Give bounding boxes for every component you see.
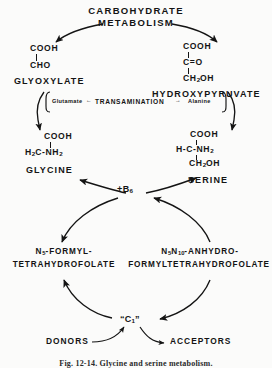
- serine-structure-line-2: H-C-NH2: [176, 145, 214, 155]
- hydroxypyruvate-structure-line-1: COOH: [183, 42, 211, 51]
- glyoxylate-structure-line-2: CHO: [30, 61, 51, 70]
- arrow-c1-pool-to-acceptors: [140, 327, 164, 343]
- one-carbon-pool-label: “C1”: [120, 315, 140, 325]
- arrow-donors-to-c1-pool: [92, 327, 124, 342]
- glyoxylate-name: GLYOXYLATE: [14, 77, 85, 86]
- serine-structure-line-3: CH2OH: [189, 159, 220, 169]
- figure-caption: Fig. 12-14. Glycine and serine metabolis…: [0, 359, 272, 368]
- arrow-n5n10-to-b6: [154, 198, 210, 242]
- transamination-left-arrow: ←: [86, 98, 92, 104]
- n5n10-anhydro-thf-line-2: FORMYLTETRAHYDROFOLATE: [126, 259, 272, 270]
- figure-title-line-1: CARBOHYDRATE: [0, 6, 272, 16]
- transamination-bracket-left: [46, 92, 50, 112]
- arrow-c1-pool-to-n5-formyl-thf: [64, 280, 112, 318]
- transamination-right-arrow: →: [175, 98, 181, 104]
- hydroxypyruvate-structure-line-3: CH2OH: [183, 74, 214, 84]
- transamination-left-product: Glutamate: [52, 99, 83, 105]
- glyoxylate-structure-line-1: COOH: [30, 44, 58, 53]
- cofactor-b6-label: +B6: [117, 185, 133, 195]
- diagram-arrows-layer: [0, 0, 272, 368]
- arrow-to-n5-formyl-thf: [62, 198, 118, 242]
- acceptors-label: ACCEPTORS: [170, 337, 231, 346]
- transamination-right-product: Alanine: [188, 99, 211, 105]
- glycine-structure-line-2: H2C-NH2: [25, 148, 63, 158]
- donors-label: DONORS: [46, 337, 89, 346]
- hydroxypyruvate-structure-line-2: C=O: [183, 58, 203, 67]
- figure-container: CARBOHYDRATE METABOLISM COOH CHO GLYOXYL…: [0, 0, 272, 368]
- arrow-glyoxylate-to-glycine: [37, 92, 44, 130]
- n5-formyl-thf-line-1: N5-FORMYL-: [4, 246, 124, 258]
- glycine-name: GLYCINE: [26, 166, 73, 175]
- serine-structure-line-1: COOH: [190, 130, 218, 139]
- glycine-structure-line-1: COOH: [44, 132, 72, 141]
- serine-name: SERINE: [188, 176, 228, 185]
- arrow-n5n10-thf-to-c1-pool: [160, 280, 210, 319]
- figure-title-line-2: METABOLISM: [0, 18, 272, 28]
- n5n10-anhydro-thf-line-1: N5N10-ANHYDRO-: [128, 246, 272, 258]
- transamination-label: TRANSAMINATION: [95, 99, 164, 106]
- n5-formyl-thf-line-2: TETRAHYDROFOLATE: [4, 259, 124, 270]
